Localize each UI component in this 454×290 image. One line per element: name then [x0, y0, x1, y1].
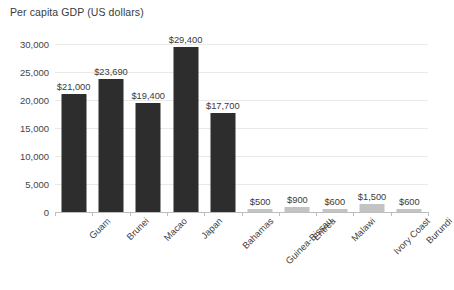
bar-value-label: $900 — [287, 195, 308, 205]
bar-value-label: $600 — [324, 197, 345, 207]
bar-group: $500 — [242, 44, 279, 212]
x-axis-category-label: Brunei — [125, 216, 151, 242]
bar-value-label: $17,700 — [206, 101, 240, 111]
x-axis-label-text: Bahamas — [240, 216, 275, 251]
bar-group: $21,000 — [55, 44, 92, 212]
bar-group: $900 — [279, 44, 316, 212]
y-axis-tick-label: 20,000 — [20, 95, 49, 106]
y-axis-tick-label: 15,000 — [20, 123, 49, 134]
bar[interactable]: $17,700 — [210, 113, 235, 212]
bar-group: $17,700 — [204, 44, 241, 212]
x-axis-category-label: Eritrea — [311, 216, 337, 242]
x-axis-tick-mark — [391, 212, 392, 216]
bar-value-label: $500 — [250, 197, 271, 207]
x-axis-category-label: Bahamas — [240, 216, 275, 251]
bar[interactable]: $600 — [322, 209, 347, 212]
bar-group: $600 — [391, 44, 428, 212]
x-axis-category-label: Malawi — [349, 216, 377, 244]
bar[interactable]: $21,000 — [61, 94, 86, 212]
bar-value-label: $600 — [399, 197, 420, 207]
x-axis-tick-mark — [279, 212, 280, 216]
bar-value-label: $1,500 — [358, 192, 386, 202]
x-axis-tick-mark — [167, 212, 168, 216]
bar-group: $1,500 — [353, 44, 390, 212]
x-axis-tick-mark — [92, 212, 93, 216]
x-axis-label-text: Guam — [87, 216, 112, 241]
x-axis-tick-mark — [428, 212, 429, 216]
plot-area: 05,00010,00015,00020,00025,00030,000$21,… — [55, 44, 428, 212]
bar[interactable]: $19,400 — [136, 103, 161, 212]
x-axis-category-label: Macao — [162, 216, 189, 243]
y-axis-tick-label: 30,000 — [20, 39, 49, 50]
bar-value-label: $29,400 — [169, 35, 203, 45]
x-axis-category-label: Guam — [87, 216, 112, 241]
bar-group: $600 — [316, 44, 353, 212]
x-axis-tick-mark — [204, 212, 205, 216]
bar-value-label: $19,400 — [131, 91, 165, 101]
bar[interactable]: $1,500 — [360, 204, 385, 212]
x-axis-label-text: Macao — [162, 216, 189, 243]
x-axis-label-text: Eritrea — [311, 216, 337, 242]
x-axis-tick-mark — [55, 212, 56, 216]
x-axis-tick-mark — [353, 212, 354, 216]
chart-title: Per capita GDP (US dollars) — [10, 6, 144, 18]
y-axis-tick-label: 0 — [44, 207, 49, 218]
bar-group: $19,400 — [130, 44, 167, 212]
bar[interactable]: $23,690 — [98, 79, 123, 212]
bar-value-label: $21,000 — [57, 82, 91, 92]
x-axis-tick-mark — [242, 212, 243, 216]
bar[interactable]: $500 — [248, 209, 273, 212]
x-axis-label-text: Malawi — [349, 216, 377, 244]
x-axis-tick-mark — [316, 212, 317, 216]
bar-value-label: $23,690 — [94, 67, 128, 77]
y-axis-tick-label: 10,000 — [20, 151, 49, 162]
bar[interactable]: $600 — [397, 209, 422, 212]
y-axis-tick-label: 5,000 — [25, 179, 49, 190]
x-axis-category-label: Japan — [199, 216, 224, 241]
x-axis-tick-mark — [130, 212, 131, 216]
bar[interactable]: $900 — [285, 207, 310, 212]
x-axis-label-text: Japan — [199, 216, 224, 241]
y-axis-tick-label: 25,000 — [20, 67, 49, 78]
bar-group: $29,400 — [167, 44, 204, 212]
bar[interactable]: $29,400 — [173, 47, 198, 212]
x-axis-label-text: Brunei — [125, 216, 151, 242]
bar-group: $23,690 — [92, 44, 129, 212]
